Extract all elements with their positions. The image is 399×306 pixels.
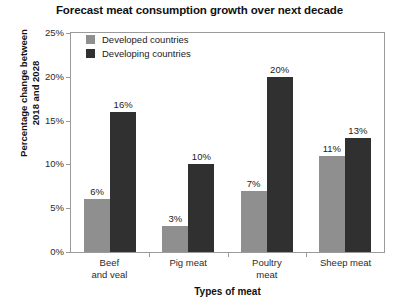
plot-area: 0%5%10%15%20%25% 6%16%3%10%7%20%11%13% bbox=[70, 32, 385, 253]
x-axis-label-line: and veal bbox=[70, 269, 149, 281]
bar-group-pig-meat: 3%10% bbox=[149, 33, 227, 252]
x-axis-label-poultry-meat: Poultrymeat bbox=[228, 257, 307, 280]
y-axis-title: Percentage change between 2018 and 2028 bbox=[18, 13, 48, 173]
y-axis-tick-label: 10% bbox=[45, 158, 64, 169]
bar-pair: 11%13% bbox=[319, 33, 371, 252]
x-axis-title: Types of meat bbox=[70, 286, 385, 297]
bar-group-poultry-meat: 7%20% bbox=[228, 33, 306, 252]
y-axis-tick-label: 0% bbox=[50, 246, 64, 257]
legend-swatch bbox=[86, 35, 95, 44]
bar-pair: 7%20% bbox=[241, 33, 293, 252]
x-axis-label-line: meat bbox=[228, 269, 307, 281]
bar-value-label: 6% bbox=[90, 186, 104, 197]
bar-value-label: 7% bbox=[247, 178, 261, 189]
y-axis-title-line-2: 2018 and 2028 bbox=[30, 13, 42, 173]
y-axis-tick-label: 20% bbox=[45, 71, 64, 82]
bar-developing-countries-beef-and-veal: 16% bbox=[110, 112, 136, 252]
y-axis-tick-label: 15% bbox=[45, 115, 64, 126]
x-axis-tick-labels: Beefand vealPig meatPoultrymeatSheep mea… bbox=[70, 257, 385, 280]
bar-group-beef-and-veal: 6%16% bbox=[71, 33, 149, 252]
y-axis-tick-label: 25% bbox=[45, 27, 64, 38]
legend-swatch bbox=[86, 49, 95, 58]
x-axis-label-line: Poultry bbox=[228, 257, 307, 269]
bar-pair: 3%10% bbox=[162, 33, 214, 252]
bar-value-label: 20% bbox=[270, 64, 289, 75]
bar-developed-countries-poultry-meat: 7% bbox=[241, 191, 267, 252]
bar-pair: 6%16% bbox=[84, 33, 136, 252]
x-axis-label-line: Pig meat bbox=[149, 257, 228, 269]
bar-value-label: 3% bbox=[169, 213, 183, 224]
y-axis-title-line-1: Percentage change between bbox=[18, 13, 30, 173]
bar-value-label: 13% bbox=[348, 125, 367, 136]
legend-item-developed-countries: Developed countries bbox=[86, 33, 191, 46]
bar-developing-countries-poultry-meat: 20% bbox=[267, 77, 293, 252]
x-axis-label-sheep-meat: Sheep meat bbox=[306, 257, 385, 280]
bar-developing-countries-sheep-meat: 13% bbox=[345, 138, 371, 252]
x-axis-label-line: Beef bbox=[70, 257, 149, 269]
chart-title: Forecast meat consumption growth over ne… bbox=[0, 4, 399, 16]
y-axis-tick-mark bbox=[66, 252, 71, 253]
bar-groups: 6%16%3%10%7%20%11%13% bbox=[71, 33, 384, 252]
legend-label: Developed countries bbox=[102, 34, 189, 45]
bar-value-label: 11% bbox=[323, 143, 341, 154]
x-axis-label-pig-meat: Pig meat bbox=[149, 257, 228, 280]
x-axis-label-beef-and-veal: Beefand veal bbox=[70, 257, 149, 280]
bar-group-sheep-meat: 11%13% bbox=[306, 33, 384, 252]
bar-value-label: 10% bbox=[192, 151, 211, 162]
legend-label: Developing countries bbox=[102, 48, 191, 59]
legend-item-developing-countries: Developing countries bbox=[86, 47, 191, 60]
y-axis-tick-label: 5% bbox=[50, 202, 64, 213]
bar-developed-countries-beef-and-veal: 6% bbox=[84, 199, 110, 252]
bar-developed-countries-pig-meat: 3% bbox=[162, 226, 188, 252]
bar-value-label: 16% bbox=[114, 99, 133, 110]
bar-developing-countries-pig-meat: 10% bbox=[188, 164, 214, 252]
chart-legend: Developed countriesDeveloping countries bbox=[86, 33, 191, 61]
bar-chart: Forecast meat consumption growth over ne… bbox=[0, 0, 399, 306]
x-axis-label-line: Sheep meat bbox=[306, 257, 385, 269]
bar-developed-countries-sheep-meat: 11% bbox=[319, 156, 345, 252]
